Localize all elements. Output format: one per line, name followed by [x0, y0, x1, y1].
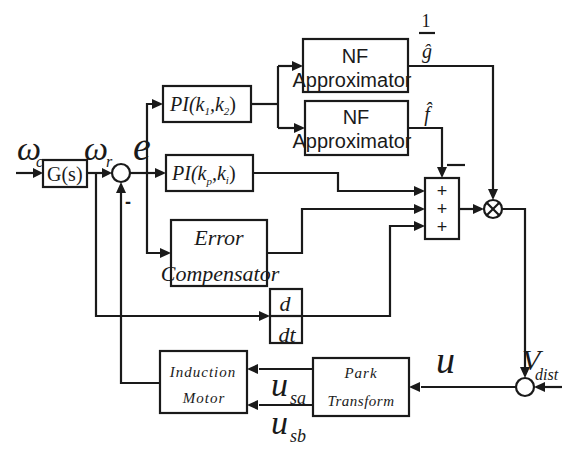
omega-c-subscript: c [36, 153, 43, 170]
error-compensator-title: Error [193, 225, 244, 250]
park-transform-subtitle: Transform [327, 393, 394, 409]
arrow-sum-input-1 [414, 186, 425, 196]
sum-sign-3: + [437, 217, 448, 237]
nf2-subtitle: Approximator [293, 130, 412, 152]
pi-kp-to-sum-line [253, 173, 417, 191]
derivative-denominator: dt [278, 322, 296, 347]
error-signal-label: e [133, 124, 151, 169]
inv-g-denominator: ĝ [422, 40, 432, 63]
arrow-into-multiplier-top [488, 189, 498, 200]
error-compensator-subtitle: Compensator [161, 261, 280, 286]
sum-sign-1: + [437, 181, 448, 201]
f-hat-to-sum-line [408, 128, 442, 170]
induction-motor-title: Induction [169, 364, 237, 380]
u-sb-subscript: sb [290, 426, 306, 446]
induction-motor-subtitle: Motor [182, 390, 226, 406]
u-sb-label: u [271, 404, 288, 441]
arrow-sum-input-3 [414, 221, 425, 231]
derivative-to-sum-line [302, 226, 417, 316]
arrow-usa [247, 364, 258, 374]
nf1-subtitle: Approximator [293, 69, 412, 91]
control-block-diagram: ω c G(s) ω r e - PI(k1,k2) PI(kp,ki) NF … [0, 0, 574, 458]
arrow-into-multiplier-left [473, 204, 484, 214]
arrow-into-pi-k1 [152, 99, 163, 109]
g-s-label: G(s) [47, 163, 83, 186]
inv-g-to-multiplier-line [408, 66, 493, 193]
nf1-title: NF [342, 45, 369, 67]
u-sa-subscript: sa [290, 388, 306, 408]
disturbance-summing-junction [516, 378, 534, 396]
error-summing-junction [112, 164, 130, 182]
feedback-minus-sign: - [125, 192, 131, 212]
arrow-into-park [409, 382, 420, 392]
v-dist-subscript: dist [535, 366, 559, 383]
inv-g-numerator: 1 [422, 11, 431, 31]
derivative-numerator: d [280, 291, 292, 316]
nf2-title: NF [343, 106, 370, 128]
u-sa-label: u [271, 366, 288, 403]
sum-sign-2: + [437, 199, 448, 219]
arrow-into-pi-kp [155, 168, 166, 178]
arrow-into-sum-top [437, 167, 447, 178]
park-transform-title: Park [343, 365, 377, 381]
arrow-sum-input-2 [414, 204, 425, 214]
compensator-to-sum-line [267, 209, 417, 253]
omega-r-label: ω [84, 130, 108, 167]
arrow-usb [247, 400, 258, 410]
feedback-line [121, 190, 160, 383]
error-to-compensator-line [147, 173, 163, 253]
arrow-v-dist [534, 382, 545, 392]
arrow-into-derivative [259, 311, 270, 321]
arrow-into-compensator [160, 248, 171, 258]
f-hat-label: f̂ [424, 102, 433, 126]
u-signal-label: u [436, 339, 455, 381]
omega-r-subscript: r [106, 153, 113, 170]
